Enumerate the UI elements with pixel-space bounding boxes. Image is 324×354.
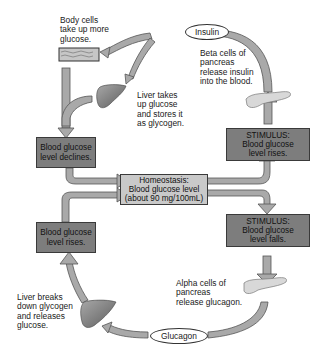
blood-glucose-declines-box: Blood glucose level declines.: [36, 137, 96, 168]
liver-breaks-label: Liver breaks down glycogen and releases …: [17, 293, 73, 331]
stimulus-falls-box: STIMULUS: Blood glucose level falls.: [226, 214, 310, 247]
body-cells-tissue: [59, 48, 99, 61]
stimulus-rises-box: STIMULUS: Blood glucose level rises.: [226, 128, 310, 161]
alpha-cells-label: Alpha cells of pancreas release glucagon…: [176, 279, 242, 307]
homeostasis-box: Homeostasis: Blood glucose level (about …: [120, 174, 208, 205]
body-cells-label: Body cells take up more glucose.: [60, 16, 109, 44]
blood-glucose-rises-box: Blood glucose level rises.: [36, 222, 96, 253]
beta-cells-label: Beta cells of pancreas release insulin i…: [200, 49, 254, 87]
liver-stores-label: Liver takes up glucose and stores it as …: [137, 91, 184, 129]
glucagon-oval: Glucagon: [150, 328, 208, 344]
insulin-oval: Insulin: [185, 24, 229, 40]
